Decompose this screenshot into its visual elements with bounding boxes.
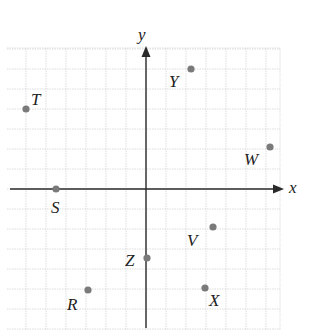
point-label: X xyxy=(208,291,220,310)
point-r: R xyxy=(66,286,92,314)
point-w: W xyxy=(244,143,274,169)
point-label: W xyxy=(244,150,260,169)
point-label: Y xyxy=(169,72,180,91)
point-dot-icon xyxy=(209,223,216,230)
point-label: R xyxy=(66,295,78,314)
point-s: S xyxy=(51,185,60,217)
x-axis-arrow-icon xyxy=(273,185,284,194)
point-dot-icon xyxy=(52,185,59,192)
point-v: V xyxy=(187,223,217,250)
point-dot-icon xyxy=(84,286,91,293)
point-label: Z xyxy=(125,251,135,270)
point-dot-icon xyxy=(187,65,194,72)
axes: x y xyxy=(10,25,297,328)
point-label: S xyxy=(51,198,60,217)
point-dot-icon xyxy=(266,143,273,150)
points: TYWSVZRX xyxy=(22,65,273,314)
x-axis-label: x xyxy=(288,178,297,197)
point-dot-icon xyxy=(201,284,208,291)
coordinate-plane: x y TYWSVZRX xyxy=(0,0,313,334)
y-axis-label: y xyxy=(136,25,146,44)
point-x: X xyxy=(201,284,220,310)
point-z: Z xyxy=(125,251,151,270)
point-label: T xyxy=(31,90,42,109)
point-label: V xyxy=(187,231,200,250)
point-dot-icon xyxy=(143,254,150,261)
point-dot-icon xyxy=(22,105,29,112)
